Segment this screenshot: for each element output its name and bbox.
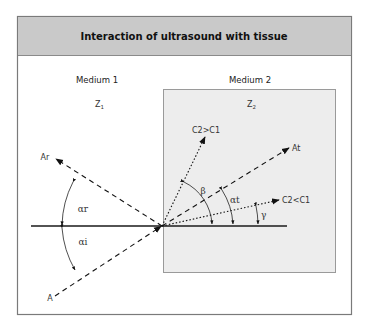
faster-medium-label: C2>C1 (192, 126, 220, 135)
incidence-angle-label: αi (79, 237, 88, 247)
transmission-angle-label: αt (230, 195, 240, 205)
gamma-angle-label: γ (261, 210, 266, 220)
incident-ray-label: A (47, 294, 53, 303)
figure-title: Interaction of ultrasound with tissue (80, 31, 287, 42)
medium-1-label: Medium 1 (76, 75, 118, 85)
reflected-ray-label: Ar (41, 153, 50, 162)
medium-2-region (164, 90, 336, 273)
slower-medium-label: C2<C1 (282, 196, 310, 205)
medium-2-label: Medium 2 (229, 75, 271, 85)
transmitted-ray-label: At (292, 144, 300, 153)
beta-angle-label: β (200, 186, 205, 196)
ultrasound-diagram: Interaction of ultrasound with tissue Me… (0, 0, 366, 328)
reflection-angle-label: αr (78, 204, 89, 214)
